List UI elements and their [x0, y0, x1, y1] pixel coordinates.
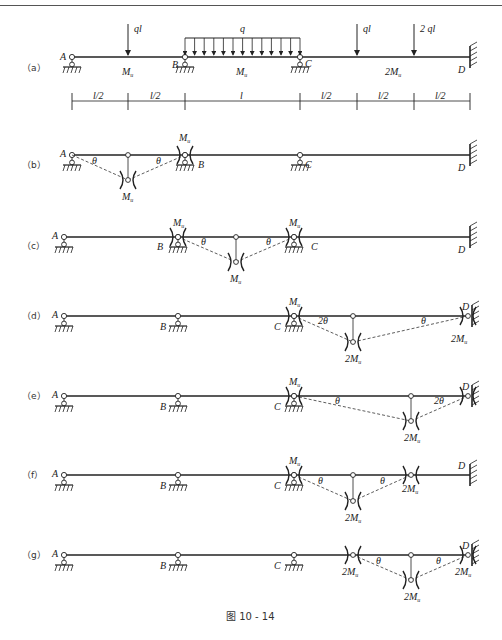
panel-f: （f） A B C D θ θ Mu 2Mu 2Mu [22, 455, 477, 524]
svg-text:C: C [274, 321, 281, 332]
svg-text:D: D [461, 381, 470, 392]
svg-text:A: A [51, 548, 59, 559]
svg-text:B: B [160, 480, 166, 491]
svg-text:θ: θ [421, 315, 426, 326]
panel-label-a: （a） [22, 63, 46, 73]
svg-text:Mu: Mu [121, 191, 133, 203]
svg-text:θ: θ [380, 475, 385, 486]
dim-3: l [240, 90, 243, 101]
svg-text:Mu: Mu [288, 296, 300, 308]
svg-text:D: D [461, 540, 470, 551]
panel-label-d: （d） [22, 311, 46, 321]
svg-text:θ: θ [376, 555, 381, 566]
svg-text:θ: θ [318, 475, 323, 486]
svg-text:θ: θ [201, 236, 206, 247]
panel-label-f: （f） [22, 470, 43, 480]
svg-text:2Mu: 2Mu [451, 333, 467, 345]
fixed-support-d [470, 42, 477, 68]
svg-text:2Mu: 2Mu [345, 512, 361, 524]
distributed-load-q [185, 38, 300, 55]
svg-text:C: C [311, 241, 318, 252]
svg-text:A: A [51, 389, 59, 400]
svg-text:B: B [160, 401, 166, 412]
dim-6: l/2 [435, 90, 446, 101]
moment-capacity-ab: Mu [121, 66, 133, 78]
svg-text:D: D [461, 301, 470, 312]
node-a-label: A [59, 51, 67, 62]
svg-text:Mu: Mu [172, 217, 184, 229]
panel-e: （e） A B C D θ 2θ Mu 2Mu [22, 376, 479, 444]
moment-capacity-cd: 2Mu [385, 66, 401, 78]
dim-5: l/2 [378, 90, 389, 101]
dim-1: l/2 [93, 90, 104, 101]
panel-b: （b） A B C D θ θ Mu Mu [22, 132, 477, 203]
svg-text:C: C [305, 159, 312, 170]
svg-text:B: B [198, 159, 204, 170]
svg-text:C: C [274, 401, 281, 412]
moment-capacity-bc: Mu [235, 66, 247, 78]
panel-d: （d） A B C D 2θ θ Mu 2Mu 2Mu [22, 296, 479, 365]
svg-text:D: D [457, 162, 466, 173]
svg-text:D: D [457, 244, 466, 255]
svg-text:Mu: Mu [178, 132, 190, 144]
svg-text:D: D [457, 460, 466, 471]
svg-text:Mu: Mu [229, 273, 241, 285]
svg-text:θ: θ [156, 155, 161, 166]
svg-text:B: B [160, 321, 166, 332]
beam-mechanism-figure: （a） A B C D ql ql 2 ql [0, 0, 502, 640]
panel-label-b: （b） [22, 160, 46, 170]
node-b-label: B [172, 59, 178, 70]
svg-text:Mu: Mu [288, 217, 300, 229]
dim-2: l/2 [150, 90, 161, 101]
svg-text:2Mu: 2Mu [455, 566, 471, 578]
svg-text:C: C [274, 480, 281, 491]
load-label-q: q [240, 23, 245, 34]
load-label-2ql: 2 ql [420, 23, 436, 34]
figure-caption: 图 10 - 14 [226, 611, 275, 622]
svg-text:Mu: Mu [288, 376, 300, 388]
node-d-label: D [457, 64, 466, 75]
svg-text:C: C [274, 560, 281, 571]
svg-text:B: B [160, 560, 166, 571]
dimension-line [72, 93, 470, 110]
svg-text:Mu: Mu [288, 455, 300, 467]
load-label-ql-2: ql [363, 23, 371, 34]
svg-text:2θ: 2θ [318, 315, 328, 326]
svg-text:B: B [157, 241, 163, 252]
svg-text:θ: θ [92, 155, 97, 166]
panel-label-c: （c） [22, 241, 45, 251]
svg-text:A: A [51, 468, 59, 479]
panel-g: （g） A B C D θ θ 2Mu 2Mu 2Mu [22, 540, 479, 603]
svg-text:A: A [51, 309, 59, 320]
svg-text:2Mu: 2Mu [402, 483, 418, 495]
svg-text:2Mu: 2Mu [342, 566, 358, 578]
svg-text:2Mu: 2Mu [404, 591, 420, 603]
panel-a: （a） A B C D ql ql 2 ql [22, 23, 477, 110]
panel-label-e: （e） [22, 391, 46, 401]
load-label-ql-1: ql [134, 23, 142, 34]
svg-text:A: A [59, 148, 67, 159]
svg-text:θ: θ [436, 555, 441, 566]
svg-text:2Mu: 2Mu [345, 353, 361, 365]
panel-c: （c） A B C D θ θ Mu Mu Mu [22, 217, 477, 285]
panel-label-g: （g） [22, 550, 46, 560]
svg-text:θ: θ [335, 395, 340, 406]
svg-text:2Mu: 2Mu [404, 432, 420, 444]
svg-text:A: A [51, 230, 59, 241]
svg-text:2θ: 2θ [434, 395, 444, 406]
svg-text:θ: θ [266, 236, 271, 247]
node-c-label: C [305, 58, 312, 69]
dim-4: l/2 [321, 90, 332, 101]
